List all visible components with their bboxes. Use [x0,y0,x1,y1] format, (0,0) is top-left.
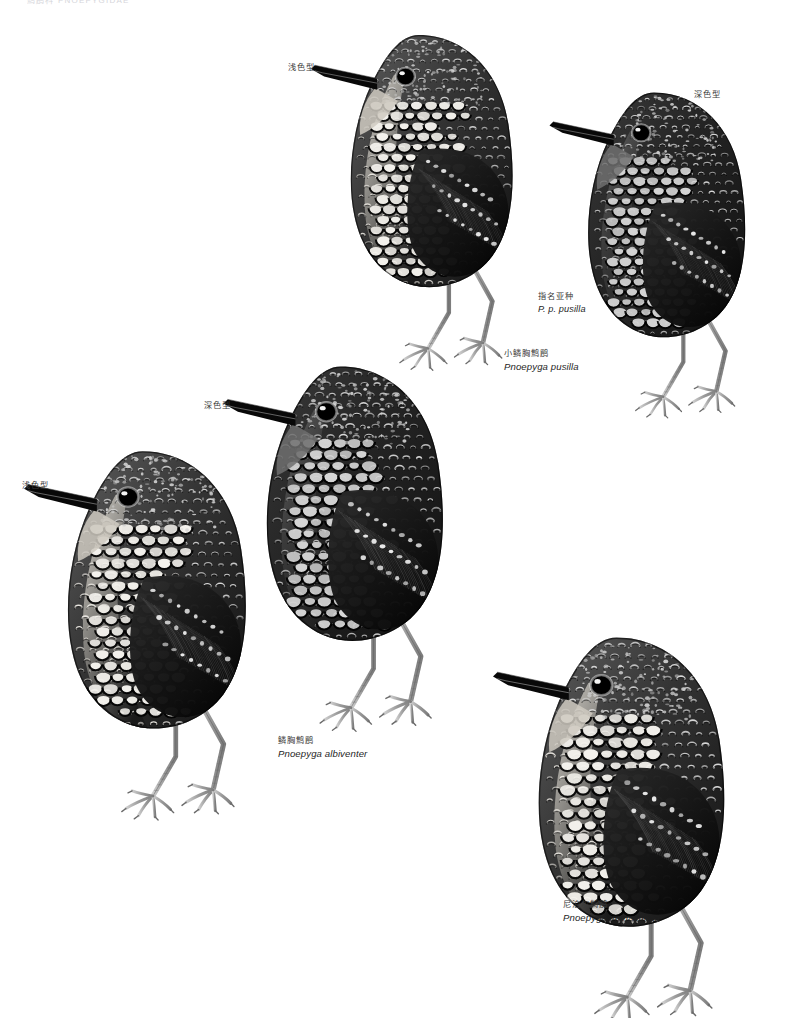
morph-label-pusilla-pale: 浅色型 [288,63,315,73]
morph-label-albiventer-dark: 深色型 [204,401,231,411]
caption-subspecies-pusilla: 指名亚种P. p. pusilla [538,291,586,316]
bird-illustration-albiventer-pale [20,432,290,807]
bird-illustration-pusilla-dark [545,76,785,406]
caption-scientific-name: Pnoepyga pusilla [504,360,579,374]
caption-scientific-name: Pnoepyga immaculata [563,911,660,925]
caption-chinese-name: 尼泊尔鹪鹛 [563,899,660,911]
caption-species-pusilla: 小鳞胸鹪鹛Pnoepyga pusilla [504,348,579,374]
caption-chinese-name: 指名亚种 [538,291,586,303]
caption-scientific-name: P. p. pusilla [538,303,586,316]
caption-species-immaculata: 尼泊尔鹪鹛Pnoepyga immaculata [563,899,660,925]
caption-chinese-name: 小鳞胸鹪鹛 [504,348,579,360]
caption-species-albiventer: 鳞胸鹪鹛Pnoepyga albiventer [278,735,367,761]
morph-label-pusilla-dark: 深色型 [694,90,721,100]
running-header: 鹪鹛科 PNOEPYGIDAE [27,0,129,5]
morph-label-albiventer-pale: 浅色型 [22,481,49,491]
plate-page: 鹪鹛科 PNOEPYGIDAE [0,0,792,1018]
bird-illustration-pusilla-pale [300,18,560,358]
bird-illustration-immaculata [487,618,772,1008]
caption-chinese-name: 鳞胸鹪鹛 [278,735,367,747]
caption-scientific-name: Pnoepyga albiventer [278,747,367,761]
